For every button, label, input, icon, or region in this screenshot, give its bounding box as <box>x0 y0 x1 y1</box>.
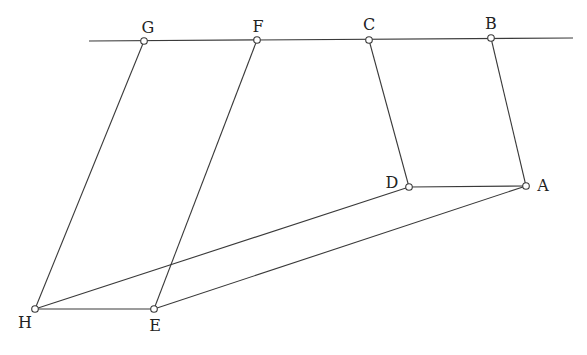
point-g-marker <box>141 38 148 45</box>
point-d-marker <box>406 184 413 191</box>
segment-hd <box>35 187 409 309</box>
segment-fe <box>154 40 257 309</box>
geometry-diagram <box>0 0 587 355</box>
point-e-label: E <box>149 318 161 334</box>
segment-gh <box>35 41 144 309</box>
point-h-marker <box>32 306 39 313</box>
segment-ba <box>491 38 526 186</box>
segment-da <box>409 186 526 187</box>
point-a-label: A <box>537 178 549 194</box>
segment-cd <box>369 40 409 187</box>
segment-ea <box>154 186 526 309</box>
point-f-marker <box>254 37 261 44</box>
point-c-marker <box>366 37 373 44</box>
point-f-label: F <box>252 19 263 35</box>
baseline-line <box>89 38 573 41</box>
segments-group <box>35 38 526 309</box>
point-e-marker <box>151 306 158 313</box>
point-a-marker <box>523 183 530 190</box>
point-d-label: D <box>386 175 399 191</box>
point-g-label: G <box>142 20 155 36</box>
points-group <box>32 35 530 313</box>
point-h-label: H <box>18 315 32 331</box>
point-c-label: C <box>363 17 375 33</box>
point-b-label: B <box>485 16 497 32</box>
point-b-marker <box>488 35 495 42</box>
